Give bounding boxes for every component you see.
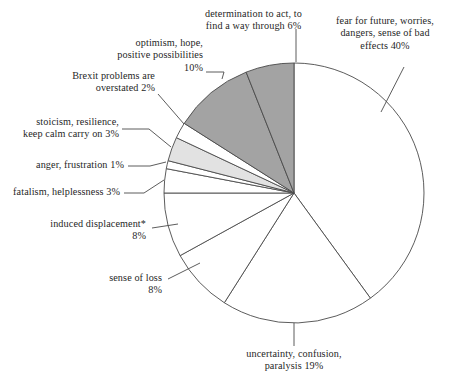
leader-line-fear bbox=[381, 67, 404, 112]
pie-slices-group bbox=[164, 63, 424, 323]
slice-label-uncertainty: uncertainty, confusion, paralysis 19% bbox=[219, 348, 369, 373]
leader-line-fatalism bbox=[124, 180, 164, 193]
slice-label-displacement: induced displacement* 8% bbox=[28, 218, 146, 243]
slice-label-optimism: optimism, hope, positive possibilities 1… bbox=[68, 37, 203, 74]
slice-label-fatalism: fatalism, helplessness 3% bbox=[4, 186, 120, 198]
slice-label-loss: sense of loss 8% bbox=[62, 272, 162, 297]
slice-label-fear: fear for future, worries, dangers, sense… bbox=[323, 15, 447, 52]
leader-line-anger bbox=[128, 162, 166, 166]
slice-label-brexit: Brexit problems are overstated 2% bbox=[43, 70, 155, 95]
slice-label-stoicism: stoicism, resilience, keep calm carry on… bbox=[12, 116, 119, 141]
leader-line-brexit bbox=[158, 94, 184, 124]
leader-line-optimism bbox=[206, 72, 224, 79]
slice-label-determination: determination to act, to find a way thro… bbox=[181, 8, 326, 33]
pie-chart-figure: determination to act, to find a way thro… bbox=[0, 0, 451, 380]
slice-label-anger: anger, frustration 1% bbox=[16, 159, 124, 171]
leader-line-stoicism bbox=[122, 129, 171, 147]
